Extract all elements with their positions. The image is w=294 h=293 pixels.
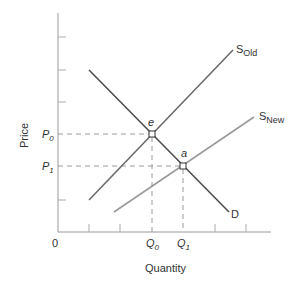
label-a: a (181, 147, 187, 159)
label-p0: P0 (42, 128, 54, 143)
equilibrium-e-marker (149, 131, 155, 137)
x-axis-label: Quantity (145, 262, 186, 274)
label-q0: Q0 (146, 237, 160, 252)
y-axis-label: Price (18, 123, 30, 148)
label-p1: P1 (42, 160, 54, 175)
supply-demand-chart: e a D SOld SNew P0 P1 Q0 Q1 0 Quantity P… (0, 0, 294, 293)
label-q1: Q1 (177, 237, 190, 252)
x-ticks (89, 224, 246, 232)
demand-curve (89, 70, 229, 212)
reference-lines (58, 134, 183, 232)
label-supply-new: SNew (259, 110, 285, 125)
y-ticks (58, 37, 66, 200)
label-e: e (148, 116, 154, 128)
origin-label: 0 (52, 237, 58, 249)
label-demand: D (231, 208, 239, 220)
label-supply-old: SOld (236, 43, 257, 58)
supply-old-curve (89, 50, 233, 200)
equilibrium-a-marker (180, 163, 186, 169)
